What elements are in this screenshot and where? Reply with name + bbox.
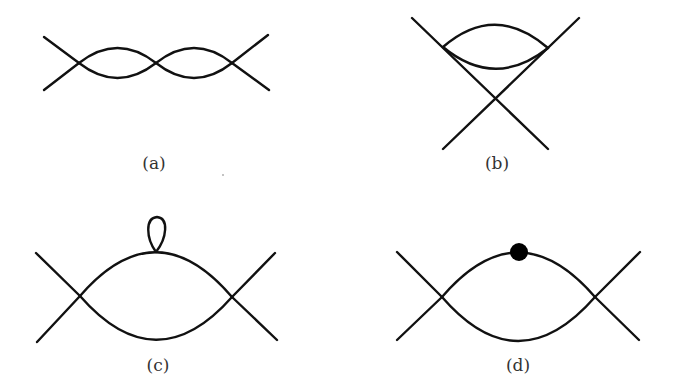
- bubble-lower-propagator: [442, 297, 595, 341]
- loop2-lower-propagator: [156, 63, 232, 78]
- diagram-a: (a): [44, 35, 269, 173]
- external-leg-top-left: [397, 252, 442, 297]
- feynman-diagrams-figure: (a) (b) (c) (d): [0, 0, 677, 385]
- scan-speck: [222, 174, 224, 176]
- diagram-b: (b): [412, 18, 579, 173]
- panel-label-c: (c): [147, 355, 170, 375]
- bubble-upper-propagator: [80, 252, 232, 297]
- external-leg-top-left: [36, 253, 80, 296]
- insertion-dot: [510, 243, 528, 261]
- external-leg-top-right: [232, 35, 268, 63]
- external-leg-top-right: [232, 253, 275, 297]
- external-leg-bottom-right: [595, 297, 639, 340]
- loop2-upper-propagator: [156, 48, 232, 63]
- panel-label-d: (d): [506, 355, 530, 375]
- panel-label-a: (a): [142, 153, 165, 173]
- bubble-upper-propagator: [443, 25, 548, 48]
- external-leg-bottom-left: [37, 296, 80, 342]
- external-leg-bottom-right: [232, 297, 277, 340]
- diagram-d: (d): [397, 243, 640, 375]
- external-line-ascending: [443, 18, 579, 149]
- external-leg-bottom-left: [44, 63, 79, 90]
- bubble-lower-propagator: [443, 47, 548, 69]
- external-line-descending: [412, 18, 548, 149]
- bubble-lower-propagator: [80, 296, 232, 340]
- loop1-upper-propagator: [79, 48, 156, 63]
- diagram-c: (c): [36, 217, 277, 375]
- external-leg-bottom-right: [232, 63, 269, 90]
- external-leg-bottom-left: [397, 297, 442, 340]
- loop1-lower-propagator: [79, 63, 156, 78]
- external-leg-top-right: [595, 252, 640, 297]
- panel-label-b: (b): [485, 153, 509, 173]
- tadpole-loop: [148, 217, 165, 252]
- external-leg-top-left: [44, 37, 79, 63]
